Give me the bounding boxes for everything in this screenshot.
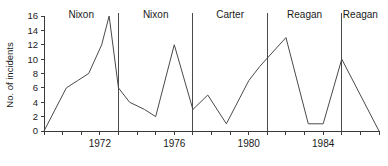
term-label: Nixon [143,9,169,20]
y-axis-title-label: No. of incidents [4,42,15,108]
y-tick-label: 4 [33,97,38,108]
term-label: Nixon [68,9,94,20]
term-label: Reagan [287,9,322,20]
x-axis-tick-labels: 1972197619801984 [89,138,335,149]
term-label: Carter [216,9,244,20]
y-axis-title: No. of incidents [4,42,15,108]
y-tick-label: 14 [27,25,38,36]
y-tick-label: 8 [33,68,38,79]
y-tick-label: 0 [33,125,38,136]
chart-canvas: No. of incidents 0246810121416 NixonNixo… [0,0,388,166]
term-labels: NixonNixonCarterReaganReagan [68,9,377,20]
incidents-line-chart: No. of incidents 0246810121416 NixonNixo… [0,0,388,166]
y-tick-label: 12 [27,39,38,50]
term-divider-lines [118,13,341,131]
x-tick-label: 1980 [238,138,261,149]
x-tick-label: 1984 [312,138,335,149]
y-axis-ticks: 0246810121416 [27,10,44,136]
x-axis-ticks [44,131,379,135]
y-tick-label: 10 [27,54,38,65]
x-tick-label: 1972 [89,138,112,149]
y-tick-label: 16 [27,10,38,21]
incidents-data-line [44,16,379,131]
y-tick-label: 2 [33,111,38,122]
term-label: Reagan [343,9,378,20]
y-tick-label: 6 [33,82,38,93]
x-tick-label: 1976 [163,138,186,149]
